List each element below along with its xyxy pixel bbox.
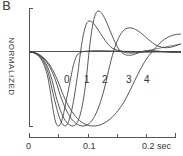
curves <box>29 11 181 126</box>
curve-label-0: 0 <box>64 74 70 85</box>
y-axis <box>30 8 34 127</box>
curve-label-2: 2 <box>102 74 108 85</box>
chart-canvas <box>0 0 183 156</box>
figure: B NORMALIZED 0 0.1 0.2 sec 0 1 2 3 4 <box>0 0 183 156</box>
curve-label-3: 3 <box>126 74 132 85</box>
curve-label-1: 1 <box>84 74 90 85</box>
panel-label: B <box>2 0 11 13</box>
x-tick-label-0.1: 0.1 <box>83 141 96 151</box>
x-tick-label-0: 0 <box>26 141 31 151</box>
y-axis-label: NORMALIZED <box>7 32 16 102</box>
curve-label-4: 4 <box>144 74 150 85</box>
x-tick-label-0.2: 0.2 sec <box>142 141 171 151</box>
x-axis <box>29 133 176 138</box>
